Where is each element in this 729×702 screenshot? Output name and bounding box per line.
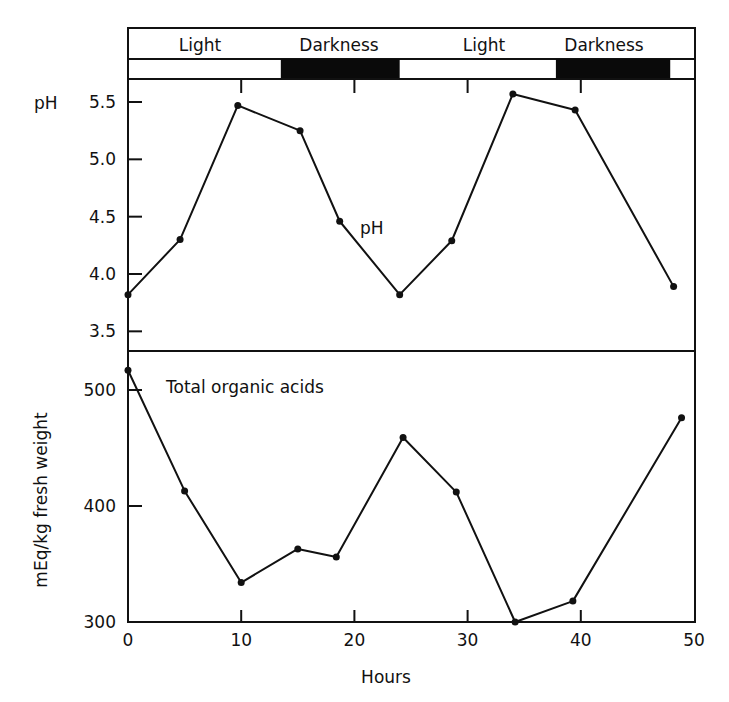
x-tick-label: 20 — [344, 630, 366, 650]
data-point — [512, 619, 519, 626]
x-axis-title: Hours — [361, 667, 411, 687]
y-tick-label: 4.0 — [89, 264, 116, 284]
acids-y-axis: 500400300 — [84, 380, 142, 632]
data-point — [297, 127, 304, 134]
acids-series — [125, 367, 686, 626]
period-label: Light — [463, 35, 506, 55]
period-label: Darkness — [564, 35, 643, 55]
x-tick-label: 30 — [457, 630, 479, 650]
data-point — [396, 291, 403, 298]
data-point — [678, 414, 685, 421]
y-tick-label: 5.5 — [89, 92, 116, 112]
x-tick-label: 10 — [230, 630, 252, 650]
data-point — [234, 102, 241, 109]
data-point — [125, 291, 132, 298]
ph-y-axis: 5.55.04.54.03.5 — [89, 92, 142, 341]
chart: LightDarknessLightDarkness 5.55.04.54.03… — [0, 0, 729, 702]
period-label: Darkness — [299, 35, 378, 55]
data-point — [333, 554, 340, 561]
ph-series-label: pH — [360, 218, 384, 238]
data-point — [294, 545, 301, 552]
data-point — [336, 218, 343, 225]
data-point — [238, 579, 245, 586]
period-label: Light — [179, 35, 222, 55]
data-point — [569, 598, 576, 605]
data-point — [181, 487, 188, 494]
data-point — [400, 434, 407, 441]
x-axis: 01020304050 — [123, 79, 705, 650]
data-point — [509, 90, 516, 97]
data-point — [125, 367, 132, 374]
data-point — [448, 237, 455, 244]
x-tick-label: 0 — [123, 630, 134, 650]
ph-series — [125, 90, 678, 298]
ph-axis-title: pH — [34, 93, 58, 113]
photoperiod-header: LightDarknessLightDarkness — [128, 28, 695, 79]
acids-axis-title: mEq/kg fresh weight — [31, 412, 51, 588]
y-tick-label: 5.0 — [89, 149, 116, 169]
series-line — [128, 370, 682, 622]
data-point — [572, 107, 579, 114]
data-point — [453, 489, 460, 496]
x-tick-label: 50 — [683, 630, 705, 650]
data-point — [670, 283, 677, 290]
series-line — [128, 94, 674, 295]
y-tick-label: 500 — [84, 380, 116, 400]
darkness-block — [281, 59, 400, 79]
x-tick-label: 40 — [570, 630, 592, 650]
data-point — [177, 236, 184, 243]
acids-series-label: Total organic acids — [165, 377, 324, 397]
darkness-block — [556, 59, 670, 79]
y-tick-label: 4.5 — [89, 207, 116, 227]
y-tick-label: 3.5 — [89, 321, 116, 341]
y-tick-label: 400 — [84, 496, 116, 516]
y-tick-label: 300 — [84, 612, 116, 632]
